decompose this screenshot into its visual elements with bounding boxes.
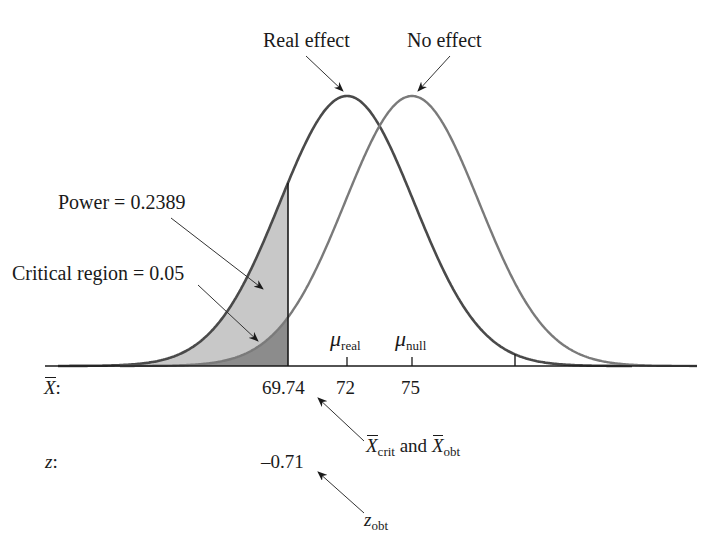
- mu-null-subscript: null: [406, 338, 426, 353]
- xbar-tick-75: 75: [401, 378, 420, 397]
- xbar-tick-72: 72: [336, 378, 355, 397]
- mu-symbol: μ: [395, 326, 406, 351]
- no-effect-label: No effect: [407, 30, 482, 50]
- zobt-label: zobt: [364, 510, 388, 532]
- real-effect-arrow: [306, 56, 343, 91]
- mu-real-label: μreal: [330, 328, 361, 352]
- zobt-arrow: [318, 472, 364, 513]
- real-effect-label: Real effect: [263, 30, 350, 50]
- xcrit-xobt-label: Xcrit and Xobt: [366, 436, 460, 458]
- xbar-tick-69-74: 69.74: [262, 378, 305, 397]
- power-label: Power = 0.2389: [58, 192, 185, 212]
- xbar-axis-label: X:: [44, 378, 61, 397]
- real-effect-curve: [58, 96, 632, 366]
- critical-region-label: Critical region = 0.05: [12, 263, 184, 283]
- mu-real-subscript: real: [341, 338, 360, 353]
- no-effect-arrow: [418, 56, 450, 91]
- z-tick-value: –0.71: [261, 452, 304, 471]
- no-effect-curve: [120, 96, 697, 366]
- mu-null-label: μnull: [395, 328, 426, 352]
- z-axis-label: z:: [45, 452, 58, 471]
- power-arrow: [171, 218, 263, 289]
- xcrit-arrow: [318, 398, 364, 441]
- mu-symbol: μ: [330, 326, 341, 351]
